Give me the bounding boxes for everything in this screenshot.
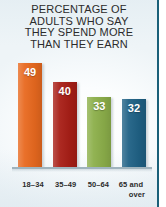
category-label-18-34-line1: 18–34: [22, 180, 43, 189]
category-label-50-64-line1: 50–64: [88, 180, 109, 189]
category-label-35-49-line1: 35–49: [55, 180, 76, 189]
right-margin: [159, 0, 166, 207]
bar-18-34: 49: [18, 63, 42, 167]
category-label-18-34: 18–34: [18, 180, 48, 199]
chart-title-line-4: THAN THEY EARN: [6, 39, 152, 51]
bar-slot-65-over: 32: [122, 50, 146, 167]
bar-value-35-49: 40: [53, 85, 77, 97]
infographic-bar-chart: PERCENTAGE OF ADULTS WHO SAY THEY SPEND …: [0, 0, 166, 207]
plot-area: 49 40 33 32: [0, 50, 157, 175]
bar-group: 49 40 33 32: [18, 50, 146, 167]
category-label-65-over: 65 and over: [116, 180, 146, 199]
bar-35-49: 40: [53, 82, 77, 167]
bar-value-50-64: 33: [87, 100, 111, 112]
chart-title-line-1: PERCENTAGE OF: [6, 4, 152, 16]
bar-slot-35-49: 40: [53, 50, 77, 167]
bar-slot-18-34: 49: [18, 50, 42, 167]
bar-slot-50-64: 33: [87, 50, 111, 167]
baseline-shadow: [12, 169, 152, 172]
category-label-65-over-line2: over: [116, 190, 146, 200]
category-label-35-49: 35–49: [51, 180, 81, 199]
chart-title: PERCENTAGE OF ADULTS WHO SAY THEY SPEND …: [6, 4, 152, 50]
axis-baseline: [12, 167, 152, 169]
category-labels: 18–34 35–49 50–64 65 and over: [18, 180, 146, 199]
bar-value-18-34: 49: [18, 66, 42, 78]
category-label-50-64: 50–64: [83, 180, 113, 199]
bar-value-65-over: 32: [122, 102, 146, 114]
bar-50-64: 33: [87, 97, 111, 167]
bar-65-over: 32: [122, 99, 146, 167]
category-label-65-over-line1: 65 and: [119, 180, 143, 189]
